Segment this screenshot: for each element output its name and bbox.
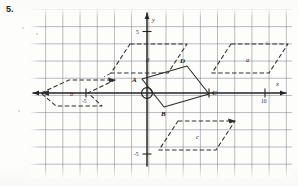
worksheet-page: 5. [0, 0, 298, 186]
tick-label-x-10: 10 [261, 98, 267, 104]
vertex-label-a: A [131, 76, 137, 84]
shape-abcd [142, 66, 209, 107]
vertex-label-c: C [212, 89, 217, 97]
y-axis-label: y [151, 16, 155, 23]
tick-label-x-neg5: -5 [82, 98, 87, 104]
shape-a [212, 44, 288, 73]
vertex-label-d: D [179, 57, 185, 65]
shape-b [41, 77, 116, 106]
shape-label-d: d [146, 56, 150, 63]
vertex-label-b: B [160, 110, 166, 118]
y-axis [145, 13, 150, 166]
construction-lines [104, 73, 111, 77]
coordinate-plot: y x 5 -5 -5 10 d a b c [0, 0, 298, 186]
shape-label-a: a [246, 56, 249, 63]
tick-label-y-5: 5 [136, 29, 139, 35]
shape-label-c: c [196, 133, 199, 140]
tick-label-y-neg5: -5 [134, 151, 139, 157]
x-axis-label: x [275, 80, 279, 87]
